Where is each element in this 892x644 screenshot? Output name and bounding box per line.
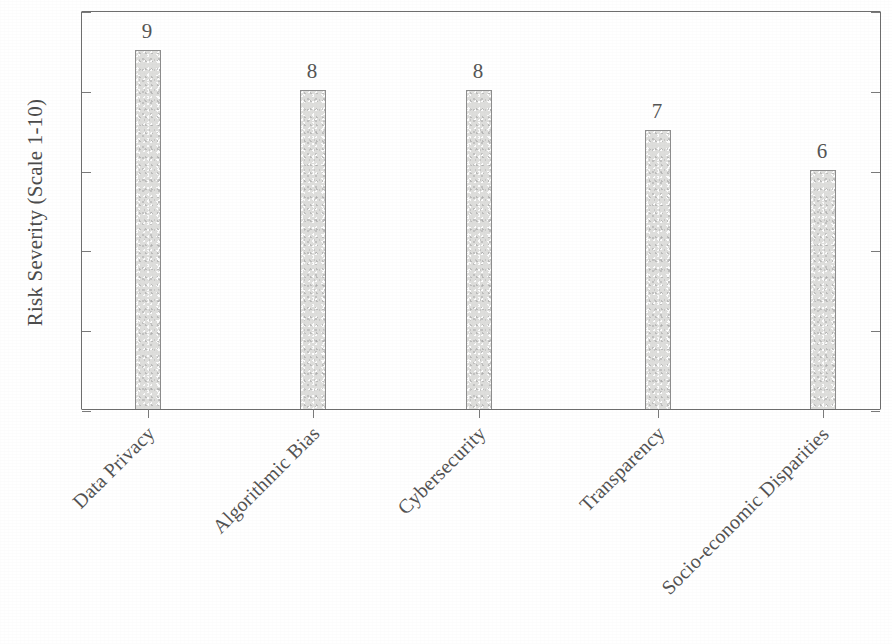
bar (810, 170, 836, 409)
bar-value-label: 9 (107, 19, 187, 44)
y-axis-tick-mark (82, 411, 91, 412)
y-axis-tick-mark (82, 331, 91, 332)
y-axis-title: Risk Severity (Scale 1-10) (23, 23, 48, 403)
x-axis-category-label: Data Privacy (68, 422, 159, 513)
bar (300, 90, 326, 409)
y-axis-tick-mark (871, 331, 880, 332)
x-axis-tick-mark (823, 409, 824, 418)
bar-value-label: 8 (272, 59, 352, 84)
bar (645, 130, 671, 409)
bar-value-label: 8 (438, 59, 518, 84)
x-axis-tick-mark (148, 409, 149, 418)
x-axis-category-label: Cybersecurity (393, 422, 490, 519)
x-axis-tick-mark (479, 409, 480, 418)
x-axis-category-label: Algorithmic Bias (208, 422, 324, 538)
bar-value-label: 7 (617, 99, 697, 124)
x-axis-tick-mark (658, 409, 659, 418)
y-axis-tick-mark (871, 172, 880, 173)
y-axis-tick-mark (82, 251, 91, 252)
y-axis-tick-mark (871, 12, 880, 13)
x-axis-tick-mark (313, 409, 314, 418)
bar (135, 50, 161, 409)
y-axis-tick-mark (871, 251, 880, 252)
y-axis-tick-mark (871, 411, 880, 412)
y-axis-tick-mark (82, 172, 91, 173)
y-axis-tick-mark (82, 92, 91, 93)
bar-value-label: 6 (782, 139, 862, 164)
x-axis-category-label: Socio-economic Disparities (657, 422, 834, 599)
x-axis-category-label: Transparency (575, 422, 669, 516)
y-axis-tick-mark (82, 12, 91, 13)
y-axis-tick-mark (871, 92, 880, 93)
bar-chart-figure: Risk Severity (Scale 1-10) 0246810 98876… (0, 0, 892, 644)
bar (466, 90, 492, 409)
